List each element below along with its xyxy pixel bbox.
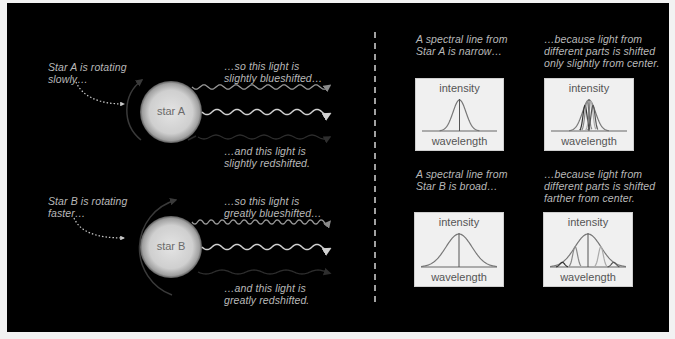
- caption-line: faster…: [48, 207, 127, 219]
- redshift-wave: [198, 135, 330, 139]
- caption-line: …so this light is: [224, 195, 322, 207]
- star-b-redshift-caption: …and this light is greatly redshifted.: [224, 282, 309, 306]
- component-line: [569, 247, 581, 266]
- caption-line: Star B is rotating: [48, 195, 127, 207]
- y-axis-label: intensity: [416, 82, 503, 94]
- caption-line: …because light from: [544, 33, 659, 45]
- caption-line: Star A is rotating: [48, 61, 127, 73]
- caption-line: …and this light is: [224, 145, 310, 157]
- y-axis-label: intensity: [415, 216, 503, 228]
- y-axis-label: intensity: [544, 216, 632, 228]
- blueshift-wave: [192, 85, 330, 89]
- caption-line: …because light from: [544, 168, 655, 180]
- row-a-line-caption: A spectral line from Star A is narrow…: [416, 33, 507, 57]
- x-axis-label: wavelength: [416, 135, 503, 147]
- caption-line: …and this light is: [224, 282, 309, 294]
- redshift-wave: [198, 270, 330, 274]
- star-a-redshift-caption: …and this light is slightly redshifted.: [224, 145, 310, 169]
- pointer-arrow-icon: [74, 218, 124, 238]
- row-a-reason-caption: …because light from different parts is s…: [544, 33, 659, 69]
- x-axis-label: wavelength: [544, 271, 632, 283]
- center-wave: [202, 109, 330, 114]
- caption-line: A spectral line from: [416, 168, 507, 180]
- x-axis-label: wavelength: [545, 135, 633, 147]
- blueshift-wave: [192, 220, 330, 224]
- row-b-reason-caption: …because light from different parts is s…: [544, 168, 655, 204]
- caption-line: different parts is shifted: [544, 180, 655, 192]
- caption-line: slightly redshifted.: [224, 157, 310, 169]
- star-a-label: star A: [141, 105, 201, 117]
- caption-line: slowly…: [48, 73, 127, 85]
- broad-line-components-plot: intensity wavelength: [543, 212, 633, 287]
- star-a-rotation-caption: Star A is rotating slowly…: [48, 61, 127, 85]
- narrow-line-plot: intensity wavelength: [415, 78, 504, 151]
- caption-line: slightly blueshifted…: [224, 72, 322, 84]
- caption-line: only slightly from center.: [544, 57, 659, 69]
- caption-line: greatly blueshifted…: [224, 207, 322, 219]
- rotation-arrow-icon: [127, 80, 142, 140]
- row-b-line-caption: A spectral line from Star B is broad…: [416, 168, 507, 192]
- caption-line: greatly redshifted.: [224, 294, 309, 306]
- caption-line: …so this light is: [224, 60, 322, 72]
- center-wave: [202, 244, 330, 249]
- x-axis-label: wavelength: [415, 271, 503, 283]
- star-b-label: star B: [141, 240, 201, 252]
- component-line: [595, 247, 607, 266]
- star-a-blueshift-caption: …so this light is slightly blueshifted…: [224, 60, 322, 84]
- star-a-group: [76, 80, 330, 143]
- narrow-line-components-plot: intensity wavelength: [544, 78, 634, 151]
- y-axis-label: intensity: [545, 82, 633, 94]
- caption-line: Star B is broad…: [416, 180, 507, 192]
- caption-line: farther from center.: [544, 192, 655, 204]
- broad-line-plot: intensity wavelength: [414, 212, 504, 287]
- pointer-arrow-icon: [76, 82, 124, 104]
- star-b-rotation-caption: Star B is rotating faster…: [48, 195, 127, 219]
- caption-line: different parts is shifted: [544, 45, 659, 57]
- star-b-blueshift-caption: …so this light is greatly blueshifted…: [224, 195, 322, 219]
- caption-line: A spectral line from: [416, 33, 507, 45]
- caption-line: Star A is narrow…: [416, 45, 507, 57]
